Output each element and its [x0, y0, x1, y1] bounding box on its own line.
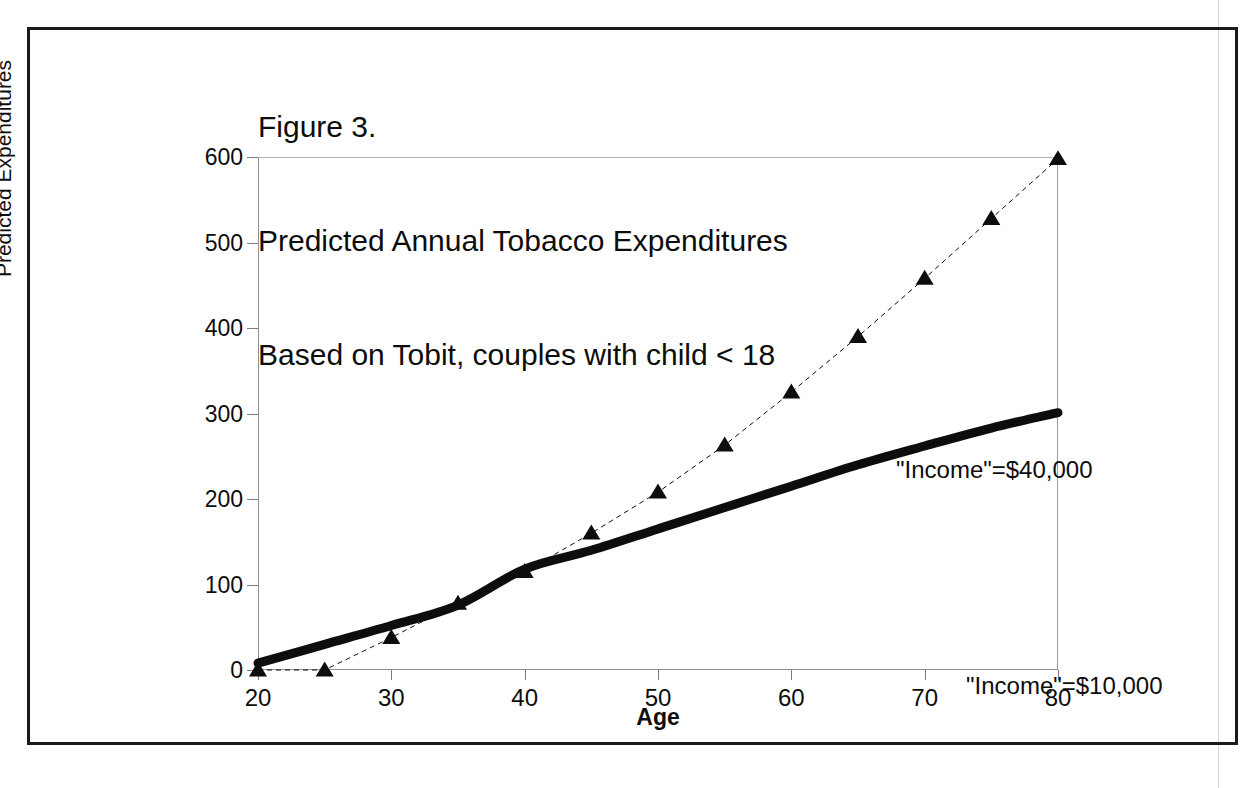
y-tick-mark — [247, 157, 258, 158]
x-axis-title: Age — [258, 705, 1058, 730]
y-tick-label: 100 — [205, 573, 243, 596]
series-plot — [258, 157, 1058, 670]
series-income-10000 — [258, 413, 1058, 664]
y-tick-label: 200 — [205, 488, 243, 511]
annotation-income-10000: "Income"=$10,000 — [966, 673, 1163, 699]
y-tick-mark — [247, 328, 258, 329]
y-tick-label: 500 — [205, 231, 243, 254]
y-tick-mark — [247, 414, 258, 415]
y-axis-title: Predicted Expenditures — [0, 0, 15, 425]
y-tick-label: 600 — [205, 146, 243, 169]
x-tick-mark — [791, 670, 792, 680]
annotation-income-40000: "Income"=$40,000 — [896, 457, 1093, 483]
y-tick-label: 400 — [205, 317, 243, 340]
data-point-marker — [582, 525, 600, 540]
data-point-marker — [782, 384, 800, 399]
data-point-marker — [716, 437, 734, 452]
data-point-marker — [649, 484, 667, 499]
x-tick-mark — [925, 670, 926, 680]
plot-area: 0100200300400500600 20304050607080 "Inco… — [258, 157, 1058, 670]
title-line-1: Figure 3. — [258, 108, 1018, 146]
data-point-marker — [316, 661, 334, 676]
series-line — [258, 159, 1058, 670]
y-tick-mark — [247, 585, 258, 586]
x-tick-mark — [658, 670, 659, 680]
series-line — [258, 413, 1058, 664]
y-tick-mark — [247, 243, 258, 244]
data-point-marker — [849, 328, 867, 343]
x-tick-mark — [525, 670, 526, 680]
y-tick-label: 0 — [230, 659, 243, 682]
figure-screenshot: Figure 3. Predicted Annual Tobacco Expen… — [0, 0, 1254, 788]
x-tick-mark — [391, 670, 392, 680]
y-tick-label: 300 — [205, 402, 243, 425]
series-income-40000 — [249, 150, 1067, 676]
y-tick-mark — [247, 499, 258, 500]
